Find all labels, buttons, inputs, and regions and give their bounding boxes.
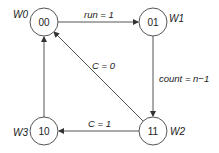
- state-name-w2: W2: [170, 126, 185, 137]
- state-name-w1: W1: [169, 13, 184, 24]
- state-node-01: 01: [139, 8, 167, 36]
- edge-label-c1: C = 1: [88, 118, 111, 129]
- edge-label-c0: C = 0: [92, 60, 116, 71]
- state-node-00: 00: [30, 8, 58, 36]
- state-name-w0: W0: [13, 9, 28, 20]
- state-node-10: 10: [30, 117, 58, 145]
- state-name-w3: W3: [13, 127, 28, 138]
- state-code: 11: [148, 126, 159, 137]
- state-code: 10: [38, 126, 50, 137]
- state-diagram: 00 01 11 10 W0 W1 W2 W3 run = 1 count = …: [0, 0, 219, 153]
- edge-11-to-00: [54, 32, 143, 121]
- state-code: 01: [147, 17, 159, 28]
- edge-label-count: count = n−1: [159, 73, 209, 84]
- state-node-11: 11: [139, 117, 167, 145]
- state-code: 00: [38, 17, 50, 28]
- edge-label-run: run = 1: [84, 9, 114, 20]
